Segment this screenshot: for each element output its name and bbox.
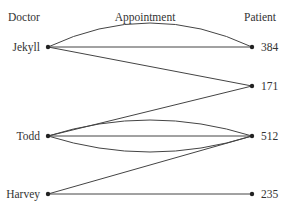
node-label-harvey: Harvey [6, 188, 40, 201]
edge-harvey-p512 [48, 136, 252, 194]
header-appointment: Appointment [115, 11, 176, 24]
node-label-p384: 384 [261, 41, 279, 53]
edge-layer [48, 23, 252, 194]
header-patient: Patient [244, 11, 277, 23]
node-dot-p512 [250, 134, 254, 138]
node-label-p171: 171 [261, 80, 279, 92]
node-label-p235: 235 [261, 188, 279, 200]
edge-todd-p171 [48, 86, 252, 136]
edge-todd-p512 [48, 120, 252, 136]
node-dot-todd [46, 134, 50, 138]
node-label-todd: Todd [17, 130, 41, 142]
edge-jekyll-p384 [48, 23, 252, 47]
node-label-jekyll: Jekyll [13, 41, 40, 54]
edge-jekyll-p171 [48, 47, 252, 86]
node-dot-p235 [250, 192, 254, 196]
node-dot-harvey [46, 192, 50, 196]
node-dot-p384 [250, 45, 254, 49]
edge-todd-p512 [48, 136, 252, 152]
node-dot-p171 [250, 84, 254, 88]
header-doctor: Doctor [8, 11, 40, 23]
node-dot-jekyll [46, 45, 50, 49]
bipartite-graph: Doctor Appointment Patient JekyllToddHar… [0, 0, 300, 210]
node-label-p512: 512 [261, 130, 279, 142]
